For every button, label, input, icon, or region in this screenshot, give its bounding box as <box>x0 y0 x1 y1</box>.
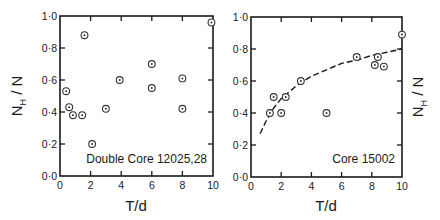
y-tick-label: 0·4 <box>42 106 57 118</box>
data-point <box>270 94 277 101</box>
y-tick-label: 1·0 <box>233 11 248 23</box>
data-point <box>380 63 387 70</box>
data-point <box>323 110 330 117</box>
x-tick-label: 8 <box>179 179 185 191</box>
left-panel: 02468100·00·20·40·60·81·0 Double Core 12… <box>8 10 219 214</box>
data-point <box>63 88 70 95</box>
left-panel-annotation: Double Core 12025,28 <box>86 152 207 166</box>
data-point <box>148 85 155 92</box>
left-y-axis-label: NH / N <box>8 76 28 117</box>
x-tick-label: 6 <box>339 180 345 192</box>
data-point <box>79 112 86 119</box>
data-point <box>208 19 215 26</box>
x-tick-label: 10 <box>207 179 219 191</box>
y-tick-label: 0·6 <box>233 75 248 87</box>
right-y-axis-label: NH / N <box>409 77 429 118</box>
data-point <box>297 78 304 85</box>
data-point <box>353 54 360 61</box>
data-point <box>179 105 186 112</box>
left-x-axis-label: T/d <box>125 197 147 214</box>
x-tick-label: 6 <box>149 179 155 191</box>
y-tick-label: 0·8 <box>42 42 57 54</box>
y-tick-label: 0·4 <box>233 107 248 119</box>
x-tick-label: 8 <box>369 180 375 192</box>
y-tick-label: 0·8 <box>233 43 248 55</box>
y-tick-label: 0·0 <box>233 171 248 183</box>
right-ylabel-rest: / N <box>409 77 426 100</box>
data-point <box>374 54 381 61</box>
data-point <box>116 77 123 84</box>
x-tick-label: 2 <box>278 180 284 192</box>
right-panel: 02468100·00·20·40·60·81·0 Core 15002 T/d… <box>233 11 429 214</box>
data-point <box>266 110 273 117</box>
data-point <box>282 94 289 101</box>
x-tick-label: 4 <box>308 180 314 192</box>
data-point <box>278 110 285 117</box>
x-tick-label: 4 <box>118 179 124 191</box>
y-tick-label: 0·2 <box>42 138 57 150</box>
x-tick-label: 0 <box>57 179 63 191</box>
y-tick-label: 0·6 <box>42 74 57 86</box>
data-point <box>179 75 186 82</box>
y-tick-label: 0·2 <box>233 139 248 151</box>
right-fit-curve <box>260 49 402 134</box>
data-point <box>371 62 378 69</box>
right-ylabel-main: N <box>409 107 426 118</box>
left-ylabel-rest: / N <box>8 76 25 99</box>
data-point <box>70 112 77 119</box>
data-point <box>148 61 155 68</box>
data-point <box>399 31 406 38</box>
data-point <box>89 141 96 148</box>
data-point <box>66 104 73 111</box>
figure: 02468100·00·20·40·60·81·0 Double Core 12… <box>0 0 440 220</box>
left-ylabel-main: N <box>8 106 25 117</box>
left-data-points <box>63 19 215 147</box>
right-x-axis-label: T/d <box>315 197 337 214</box>
data-point <box>103 105 110 112</box>
x-tick-label: 2 <box>88 179 94 191</box>
x-tick-label: 0 <box>248 180 254 192</box>
y-tick-label: 0·0 <box>42 170 57 182</box>
x-tick-label: 10 <box>396 180 408 192</box>
data-point <box>81 32 88 39</box>
y-tick-label: 1·0 <box>42 10 57 22</box>
right-data-points <box>266 31 405 116</box>
right-panel-annotation: Core 15002 <box>332 152 395 166</box>
chart-canvas: 02468100·00·20·40·60·81·0 Double Core 12… <box>0 0 440 220</box>
